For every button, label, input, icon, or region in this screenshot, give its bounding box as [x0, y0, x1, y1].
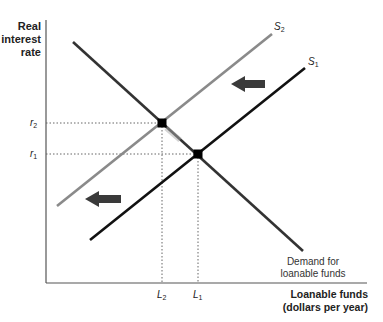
equilibrium-point-initial	[194, 150, 203, 159]
r1-tick-label: r1	[30, 148, 37, 163]
s1-label: S1	[308, 56, 319, 71]
shift-left-arrow-lower	[85, 191, 121, 207]
s2-label: S2	[274, 21, 285, 36]
equilibrium-point-new	[158, 119, 167, 128]
demand-curve	[73, 42, 303, 251]
y-axis-label: Real interest rate	[0, 20, 41, 59]
x-axis-label: Loanable funds (dollars per year)	[250, 288, 368, 314]
shift-left-arrow-upper	[231, 76, 265, 92]
l1-tick-label: L1	[193, 289, 202, 304]
l2-tick-label: L2	[157, 289, 166, 304]
r2-tick-label: r2	[30, 117, 37, 132]
movement-along-demand	[166, 128, 180, 140]
demand-label: Demand for loanable funds	[268, 256, 358, 280]
